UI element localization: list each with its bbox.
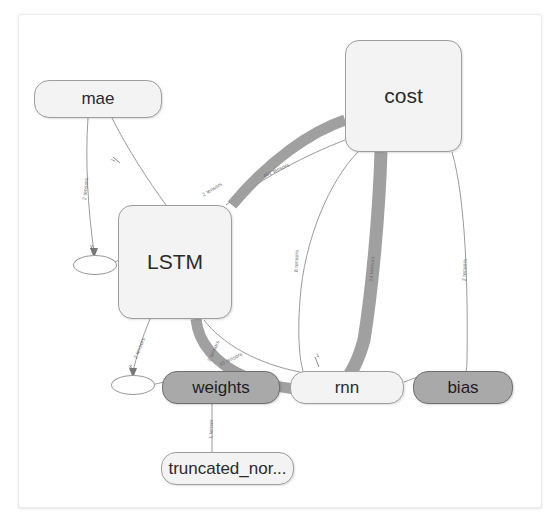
node-weights-label: weights <box>192 378 250 398</box>
annotation-y-letter: y <box>90 243 93 249</box>
node-rnn[interactable]: rnn <box>290 371 404 404</box>
edge-label-cost-to-rnn-thin: 8 tensors <box>293 250 300 272</box>
node-mae[interactable]: mae <box>34 80 162 118</box>
node-y-summary[interactable] <box>73 255 117 275</box>
node-x-summary[interactable] <box>111 375 155 395</box>
node-cost-label: cost <box>384 84 423 108</box>
node-mae-label: mae <box>81 89 114 109</box>
edge-label-weights-to-truncated: 1 tensor <box>207 419 214 439</box>
node-bias-label: bias <box>447 378 478 398</box>
node-cost[interactable]: cost <box>345 40 462 152</box>
annotation-x-letter: x <box>129 363 132 369</box>
node-bias[interactable]: bias <box>413 371 513 404</box>
node-weights[interactable]: weights <box>162 371 280 404</box>
edge-label-cost-to-bias: 2 tensors <box>461 259 468 281</box>
node-truncated-normal-label: truncated_nor... <box>168 459 286 479</box>
graph-canvas[interactable]: mae cost LSTM weights rnn bias truncated… <box>0 0 558 521</box>
node-rnn-label: rnn <box>335 378 360 398</box>
node-truncated-normal[interactable]: truncated_nor... <box>161 452 294 485</box>
node-lstm[interactable]: LSTM <box>118 205 232 319</box>
node-lstm-label: LSTM <box>147 250 203 274</box>
